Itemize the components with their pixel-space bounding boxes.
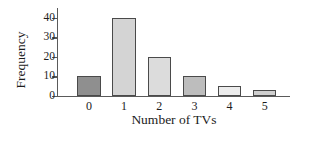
y-tick-label: 20 xyxy=(44,51,56,63)
bar-chart-figure: Frequency 010203040 012345 Number of TVs xyxy=(0,0,319,142)
x-axis-line xyxy=(57,96,290,97)
bar-4 xyxy=(218,86,241,96)
plot-area: 010203040 012345 xyxy=(58,8,290,97)
bar-5 xyxy=(253,90,276,96)
bar-0 xyxy=(77,76,100,96)
y-tick-label: 30 xyxy=(44,32,56,44)
bar-1 xyxy=(112,18,135,96)
x-tick-label-2: 2 xyxy=(156,100,162,112)
x-tick-label-0: 0 xyxy=(86,100,92,112)
y-tick-label: 10 xyxy=(44,71,56,83)
x-tick-label-4: 4 xyxy=(227,100,233,112)
y-tick-label: 40 xyxy=(44,12,56,24)
bar-3 xyxy=(183,76,206,96)
x-tick-label-5: 5 xyxy=(262,100,268,112)
y-axis-title: Frequency xyxy=(13,18,29,102)
y-tick-label: 0 xyxy=(49,90,55,102)
x-tick-label-3: 3 xyxy=(191,100,197,112)
x-axis-title: Number of TVs xyxy=(58,112,290,128)
y-axis-line xyxy=(57,8,58,97)
bar-2 xyxy=(148,57,171,96)
x-tick-label-1: 1 xyxy=(121,100,127,112)
